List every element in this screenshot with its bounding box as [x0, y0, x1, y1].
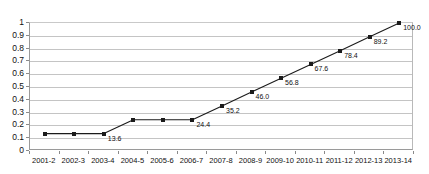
x-axis-tick-label: 2002-3: [62, 157, 85, 165]
data-point-marker: [397, 21, 401, 25]
x-axis-tick-mark: [295, 151, 296, 154]
data-point-label: 78.4: [344, 52, 358, 59]
y-axis-tick-mark: [26, 35, 29, 36]
x-axis-tick-mark: [354, 151, 355, 154]
line-chart: 13.624.435.246.056.867.678.489.2100.0 00…: [0, 0, 429, 174]
data-point-marker: [161, 118, 165, 122]
y-axis-tick-label: 0.7: [0, 56, 24, 65]
data-point-marker: [220, 104, 224, 108]
x-axis-tick-label: 2006-7: [180, 157, 203, 165]
data-point-marker: [309, 62, 313, 66]
y-axis-tick-label: 0.6: [0, 69, 24, 78]
data-point-label: 46.0: [256, 93, 270, 100]
x-axis-tick-label: 2010-11: [296, 157, 323, 165]
data-point-label: 89.2: [374, 38, 388, 45]
x-axis-tick-label: 2009-10: [266, 157, 294, 165]
x-axis-tick-label: 2003-4: [91, 157, 114, 165]
data-point-label: 67.6: [315, 65, 329, 72]
data-point-label: 13.6: [108, 135, 122, 142]
x-axis-tick-mark: [29, 151, 30, 154]
plot-area: 13.624.435.246.056.867.678.489.2100.0: [29, 22, 413, 150]
y-axis-tick-mark: [26, 124, 29, 125]
y-axis-tick-mark: [26, 86, 29, 87]
x-axis-tick-label: 2008-9: [239, 157, 262, 165]
y-axis-tick-label: 0.4: [0, 95, 24, 104]
x-axis-tick-mark: [88, 151, 89, 154]
data-point-marker: [131, 118, 135, 122]
x-axis-tick-label: 2005-6: [150, 157, 173, 165]
y-axis-tick-mark: [26, 99, 29, 100]
x-axis-tick-mark: [236, 151, 237, 154]
y-axis-tick-mark: [26, 22, 29, 23]
x-axis-tick-mark: [147, 151, 148, 154]
x-axis-tick-label: 2004-5: [121, 157, 144, 165]
y-axis-tick-label: 0.5: [0, 82, 24, 91]
y-axis-tick-label: 0.1: [0, 133, 24, 142]
data-point-marker: [250, 90, 254, 94]
data-point-marker: [368, 35, 372, 39]
y-axis-tick-label: 0.9: [0, 31, 24, 40]
x-axis-tick-mark: [383, 151, 384, 154]
x-axis-tick-mark: [118, 151, 119, 154]
y-axis-tick-mark: [26, 112, 29, 113]
x-axis-tick-label: 2012-13: [355, 157, 383, 165]
data-point-label: 100.0: [403, 24, 421, 31]
y-axis-tick-mark: [26, 73, 29, 74]
data-point-marker: [43, 132, 47, 136]
data-point-label: 35.2: [226, 107, 240, 114]
x-axis-tick-label: 2011-12: [326, 157, 353, 165]
y-axis-tick-mark: [26, 137, 29, 138]
data-point-label: 24.4: [196, 121, 210, 128]
y-axis-tick-label: 0.2: [0, 120, 24, 129]
x-axis-tick-mark: [265, 151, 266, 154]
data-point-marker: [102, 132, 106, 136]
data-point-marker: [338, 49, 342, 53]
x-axis-tick-label: 2013-14: [384, 157, 412, 165]
x-axis-tick-mark: [206, 151, 207, 154]
y-axis-tick-label: 0.8: [0, 44, 24, 53]
data-point-label: 56.8: [285, 79, 299, 86]
data-point-marker: [190, 118, 194, 122]
series-line: [30, 23, 414, 151]
y-axis-tick-label: 0: [0, 146, 24, 155]
data-point-marker: [72, 132, 76, 136]
y-axis-tick-label: 0.3: [0, 108, 24, 117]
y-axis-tick-label: 1: [0, 18, 24, 27]
y-axis-tick-mark: [26, 60, 29, 61]
y-axis-tick-mark: [26, 48, 29, 49]
x-axis-tick-mark: [177, 151, 178, 154]
x-axis-tick-label: 2001-2: [32, 157, 55, 165]
data-point-marker: [279, 76, 283, 80]
x-axis-tick-mark: [59, 151, 60, 154]
x-axis-tick-mark: [413, 151, 414, 154]
x-axis-tick-label: 2007-8: [209, 157, 232, 165]
x-axis-tick-mark: [324, 151, 325, 154]
